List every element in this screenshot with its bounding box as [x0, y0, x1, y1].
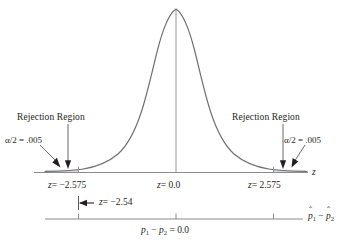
right-alpha-leader-arrowhead — [292, 158, 299, 167]
left-alpha-leader-arrowhead — [52, 158, 60, 168]
center-value-label: z= 0.0 — [157, 181, 180, 191]
phat1-subscript: 1 — [313, 215, 316, 222]
left-critical-value-label: z= −2.575 — [48, 181, 86, 191]
phat-difference-axis-label: ̂p1 − ̂p2 — [308, 212, 334, 222]
phat-difference-operator: − — [316, 211, 326, 221]
phat2-subscript: 2 — [331, 215, 334, 222]
p1-subscript: 1 — [146, 229, 149, 236]
population-proportion-difference-label: p1 − p2 = 0.0 — [141, 226, 189, 236]
p2-subscript: 2 — [164, 229, 167, 236]
center-value-number: = 0.0 — [161, 180, 181, 190]
left-critical-value-number: = −2.575 — [52, 180, 86, 190]
right-critical-value-label: z= 2.575 — [248, 181, 281, 191]
right-rejection-leader-arrowhead — [280, 160, 286, 169]
test-statistic-number: = −2.54 — [103, 197, 133, 207]
left-rejection-region-label: Rejection Region — [17, 113, 85, 123]
left-alpha-leader-line — [40, 145, 56, 161]
left-alpha-label: α/2 = .005 — [5, 136, 42, 145]
test-statistic-arrowhead — [79, 200, 87, 207]
difference-operator: − — [149, 225, 159, 235]
right-alpha-leader-line — [295, 145, 305, 161]
right-critical-value-number: = 2.575 — [252, 180, 281, 190]
right-rejection-region-label: Rejection Region — [232, 113, 300, 123]
right-alpha-label: α/2 = .005 — [284, 136, 321, 145]
test-statistic-label: z= −2.54 — [99, 198, 132, 208]
normal-distribution-hypothesis-test-figure: Rejection Region Rejection Region α/2 = … — [0, 0, 346, 243]
left-rejection-leader-arrowhead — [65, 160, 71, 169]
z-axis-label: z — [312, 168, 316, 178]
difference-equals-value: = 0.0 — [167, 225, 189, 235]
